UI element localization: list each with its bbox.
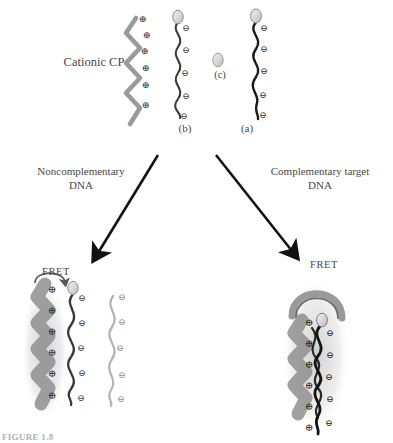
svg-text:⊖: ⊖ — [182, 45, 190, 55]
svg-text:⊕: ⊕ — [141, 46, 149, 56]
complementary-target-dna-label: Complementary target DNA — [250, 165, 390, 193]
svg-text:⊖: ⊖ — [325, 372, 333, 382]
noncomplementary-dna-label: Noncomplementary DNA — [6, 165, 156, 193]
fret-label-left: FRET — [28, 265, 84, 278]
right-dna-fluorophore — [317, 313, 328, 327]
bottom-left-complex: ⊕ ⊕ ⊕ ⊕ ⊕ ⊕ ⊖ ⊖ ⊖ ⊖ ⊖ ⊖ ⊖ — [5, 268, 195, 443]
svg-text:⊖: ⊖ — [118, 370, 126, 380]
svg-text:⊕: ⊕ — [48, 390, 56, 401]
svg-text:⊖: ⊖ — [260, 66, 268, 76]
svg-text:⊕: ⊕ — [305, 359, 313, 370]
panel-a-label: (a) — [222, 122, 272, 136]
svg-text:⊖: ⊖ — [326, 350, 334, 360]
svg-text:⊕: ⊕ — [143, 30, 151, 40]
svg-text:⊕: ⊕ — [48, 284, 56, 295]
svg-text:⊖: ⊖ — [118, 317, 126, 327]
svg-text:⊖: ⊖ — [326, 394, 334, 404]
left-cationic-cp — [37, 284, 49, 404]
fret-label-right: FRET — [296, 258, 352, 271]
svg-text:⊖: ⊖ — [78, 368, 86, 378]
svg-text:⊕: ⊕ — [48, 347, 56, 358]
svg-text:⊕: ⊕ — [305, 380, 313, 391]
branch-arrows — [0, 145, 393, 265]
left-dna-light-negative-charges: ⊖ ⊖ ⊖ ⊖ ⊖ — [116, 292, 126, 404]
bottom-right-complex: ⊕ ⊕ ⊕ ⊕ ⊕ ⊕ ⊖ ⊖ ⊖ ⊖ ⊖ — [250, 268, 393, 443]
svg-text:⊕: ⊕ — [142, 80, 150, 90]
svg-text:⊕: ⊕ — [48, 368, 56, 379]
fret-dna-sensing-figure: ⊕ ⊕ ⊕ ⊕ ⊕ ⊕ ⊖ ⊖ ⊖ ⊖ ⊖ ⊖ ⊖ — [0, 0, 393, 443]
panel-c-fluorophore — [213, 53, 223, 67]
svg-text:⊕: ⊕ — [48, 326, 56, 337]
panel-c-label: (c) — [198, 68, 242, 81]
svg-text:⊖: ⊖ — [77, 393, 85, 403]
svg-text:⊖: ⊖ — [180, 111, 188, 121]
strand-b-negative-charges: ⊖ ⊖ ⊖ ⊖ ⊖ — [180, 23, 190, 121]
svg-text:⊕: ⊕ — [305, 317, 313, 328]
cationic-cp-label: Cationic CP — [48, 55, 140, 71]
svg-text:⊕: ⊕ — [139, 14, 147, 24]
svg-text:⊕: ⊕ — [142, 63, 150, 73]
svg-text:⊕: ⊕ — [48, 305, 56, 316]
left-dna-strand-light — [109, 296, 115, 406]
svg-text:⊖: ⊖ — [182, 91, 190, 101]
svg-text:⊖: ⊖ — [260, 23, 268, 33]
svg-text:⊖: ⊖ — [77, 343, 85, 353]
left-dna-fluorophore — [68, 281, 78, 294]
svg-text:⊖: ⊖ — [116, 343, 124, 353]
svg-text:⊖: ⊖ — [259, 110, 267, 120]
figure-caption: FIGURE 1.8 — [2, 432, 54, 442]
left-dna-dark-negative-charges: ⊖ ⊖ ⊖ ⊖ ⊖ — [77, 293, 86, 403]
cationic-cp-positive-charges: ⊕ ⊕ ⊕ ⊕ ⊕ ⊕ — [139, 14, 151, 110]
svg-text:⊖: ⊖ — [117, 394, 125, 404]
strand-a-fluorophore — [251, 9, 262, 23]
svg-text:⊖: ⊖ — [260, 44, 268, 54]
strand-b-fluorophore — [173, 10, 183, 24]
panel-b-label: (b) — [160, 122, 210, 136]
svg-text:⊕: ⊕ — [142, 100, 150, 110]
svg-text:⊕: ⊕ — [305, 422, 313, 433]
cationic-cp-chain — [126, 18, 140, 124]
svg-text:⊖: ⊖ — [78, 318, 86, 328]
svg-text:⊖: ⊖ — [325, 418, 333, 428]
svg-text:⊖: ⊖ — [182, 23, 190, 33]
svg-text:⊖: ⊖ — [326, 328, 334, 338]
strand-a-negative-charges: ⊖ ⊖ ⊖ ⊖ ⊖ — [259, 23, 268, 120]
svg-text:⊖: ⊖ — [118, 292, 126, 302]
svg-text:⊖: ⊖ — [259, 90, 267, 100]
svg-text:⊕: ⊕ — [305, 401, 313, 412]
svg-text:⊖: ⊖ — [78, 293, 86, 303]
svg-text:⊖: ⊖ — [181, 68, 189, 78]
